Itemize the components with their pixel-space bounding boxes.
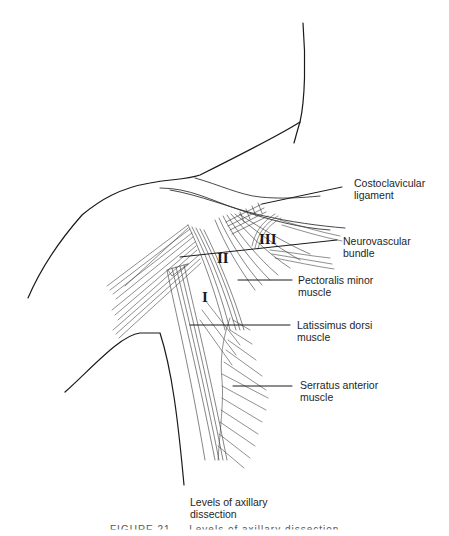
label-latissimus-dorsi: Latissimus dorsi muscle bbox=[297, 319, 372, 343]
pectoralis-major-fibers bbox=[107, 225, 201, 338]
figure-title: Levels of axillary dissection bbox=[190, 496, 268, 520]
arm-outline bbox=[65, 333, 184, 485]
pectoralis-minor-fibers bbox=[188, 214, 310, 330]
label-neurovascular-bundle: Neurovascular bundle bbox=[343, 235, 411, 259]
axilla-illustration bbox=[0, 0, 449, 536]
leader-costoclavicular bbox=[262, 187, 342, 204]
level-1-marker: I bbox=[202, 289, 208, 306]
neck-outline bbox=[28, 23, 305, 298]
label-serratus-anterior: Serratus anterior muscle bbox=[300, 379, 378, 403]
level-2-marker: II bbox=[217, 250, 229, 267]
level-3-marker: III bbox=[259, 231, 277, 248]
label-pectoralis-minor: Pectoralis minor muscle bbox=[298, 274, 373, 298]
latissimus-dorsi-fibers bbox=[167, 264, 227, 460]
label-costoclavicular-ligament: Costoclavicular ligament bbox=[354, 177, 425, 201]
